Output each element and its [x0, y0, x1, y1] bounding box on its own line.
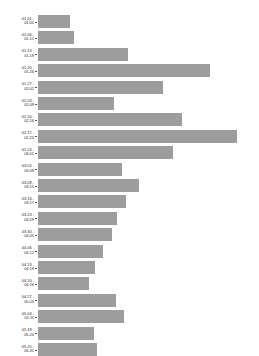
y-axis-tick-label: 02.17 - 02.23 — [7, 131, 34, 140]
y-axis-tick-label: 04.06 - 04.12 — [7, 246, 34, 255]
bar — [38, 31, 74, 44]
y-axis-tick-label: 03.09 - 03.15 — [7, 181, 34, 190]
bar — [38, 15, 70, 28]
y-axis-tick-mark — [35, 153, 37, 154]
y-axis-tick-label: 01.27 - 02.02 — [7, 82, 34, 91]
y-axis-tick-mark — [35, 104, 37, 105]
y-axis-tick-mark — [35, 71, 37, 72]
bar — [38, 81, 163, 94]
y-axis-tick-label: 05.25 - 05.31 — [7, 345, 34, 354]
bar — [38, 343, 97, 356]
y-axis-tick-mark — [35, 87, 37, 88]
y-axis-tick-label: 05.18 - 05.24 — [7, 328, 34, 337]
bar — [38, 113, 182, 126]
bar — [38, 245, 103, 258]
bar — [38, 48, 128, 61]
y-axis-tick-mark — [35, 38, 37, 39]
y-axis-tick-label: 04.20 - 04.26 — [7, 279, 34, 288]
y-axis-tick-label: 03.30 - 04.05 — [7, 230, 34, 239]
y-axis-tick-label: 01.01 - 01.05 — [7, 17, 34, 26]
y-axis-tick-mark — [35, 186, 37, 187]
bar — [38, 130, 237, 143]
y-axis-tick-mark — [35, 317, 37, 318]
bar — [38, 310, 124, 323]
y-axis-tick-label: 01.20 - 01.26 — [7, 66, 34, 75]
y-axis-tick-label: 03.16 - 03.17 — [7, 197, 34, 206]
bar — [38, 294, 116, 307]
y-axis-tick-label: 02.03 - 02.09 — [7, 99, 34, 108]
y-axis-tick-mark — [35, 169, 37, 170]
y-axis-tick-label: 03.23 - 03.29 — [7, 213, 34, 222]
y-axis-tick-mark — [35, 300, 37, 301]
bar — [38, 228, 112, 241]
y-axis-tick-mark — [35, 218, 37, 219]
y-axis-tick-mark — [35, 235, 37, 236]
y-axis-tick-label: 01.06 - 01.12 — [7, 33, 34, 42]
bar — [38, 64, 210, 77]
y-axis-tick-mark — [35, 54, 37, 55]
bar — [38, 179, 139, 192]
y-axis-tick-mark — [35, 333, 37, 334]
y-axis-tick-mark — [35, 202, 37, 203]
bar — [38, 261, 95, 274]
y-axis-tick-mark — [35, 268, 37, 269]
y-axis-tick-mark — [35, 284, 37, 285]
bar — [38, 277, 89, 290]
y-axis-tick-mark — [35, 251, 37, 252]
y-axis-tick-mark — [35, 120, 37, 121]
y-axis-tick-label: 04.13 - 04.19 — [7, 263, 34, 272]
bar — [38, 97, 114, 110]
y-axis-tick-mark — [35, 136, 37, 137]
y-axis-tick-mark — [35, 22, 37, 23]
y-axis-tick-label: 05.04 - 05.11 — [7, 312, 34, 321]
y-axis-tick-label: 02.24 - 03.01 — [7, 148, 34, 157]
y-axis-tick-label: 03.02 - 03.08 — [7, 164, 34, 173]
bar-chart-figure: 01.01 - 01.0501.06 - 01.1201.13 - 01.190… — [0, 0, 259, 356]
y-axis-tick-label: 02.10 - 02.16 — [7, 115, 34, 124]
bar — [38, 212, 117, 225]
y-axis-tick-mark — [35, 350, 37, 351]
bar — [38, 163, 122, 176]
y-axis-tick-label: 01.13 - 01.19 — [7, 49, 34, 58]
bar — [38, 327, 94, 340]
y-axis-tick-label: 04.27 - 05.03 — [7, 295, 34, 304]
bar — [38, 195, 126, 208]
bar — [38, 146, 173, 159]
plot-area: 01.01 - 01.0501.06 - 01.1201.13 - 01.190… — [0, 0, 259, 356]
